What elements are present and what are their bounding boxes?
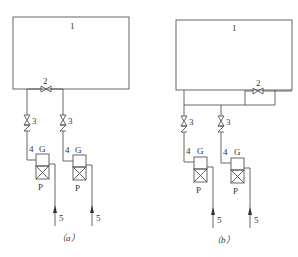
valve-2-icon-b — [253, 88, 263, 94]
valve-3-label: 3 — [189, 117, 194, 127]
gas-label: G — [39, 144, 46, 154]
panel-a: 1 2 3 4 G P 5 3 — [13, 17, 129, 243]
gas-chamber-icon — [194, 157, 207, 169]
inlet-label: 5 — [254, 215, 259, 225]
pipe-4-label: 4 — [186, 146, 191, 156]
pump-unit-b2: 3 4 G P 5 — [218, 105, 259, 228]
pipe-4-label: 4 — [29, 144, 34, 154]
inlet-arrow-icon — [53, 205, 57, 213]
tank-label-a: 1 — [70, 21, 75, 31]
gas-label: G — [75, 145, 82, 155]
caption-a: （a） — [57, 233, 80, 243]
schematic-diagram: 1 2 3 4 G P 5 3 — [0, 0, 298, 257]
inlet-arrow-icon — [211, 207, 215, 215]
caption-b: （b） — [212, 235, 235, 245]
pump-unit-a1: 3 4 G P 5 — [24, 89, 64, 226]
inlet-label: 5 — [96, 213, 101, 223]
pipe-4-label: 4 — [65, 145, 70, 155]
gas-label: G — [234, 147, 241, 157]
pump-unit-b1: 3 4 G P 5 — [181, 105, 222, 228]
valve-2-label-a: 2 — [43, 76, 48, 86]
inlet-label: 5 — [217, 215, 222, 225]
inlet-label: 5 — [59, 213, 64, 223]
check-valve-icon — [60, 125, 66, 131]
valve-3-label: 3 — [32, 116, 37, 126]
valve-2-label-b: 2 — [256, 78, 261, 88]
pump-label: P — [196, 185, 201, 195]
pipe-4-label: 4 — [223, 147, 228, 157]
check-valve-icon — [181, 126, 187, 132]
gas-label: G — [197, 146, 204, 156]
pump-label: P — [233, 186, 238, 196]
panel-b: 1 2 3 4 G P 5 — [176, 20, 292, 245]
pump-unit-a2: 3 4 G P 5 — [60, 89, 101, 226]
valve-3-icon — [24, 115, 30, 125]
pump-label: P — [75, 183, 80, 193]
pump-label: P — [38, 182, 43, 192]
valve-3-icon — [218, 116, 224, 126]
tank-label-b: 1 — [232, 23, 237, 33]
check-valve-icon — [24, 125, 30, 131]
valve-3-icon — [181, 116, 187, 126]
inlet-arrow-icon — [90, 205, 94, 213]
check-valve-icon — [218, 126, 224, 132]
gas-chamber-icon — [73, 155, 86, 167]
inlet-arrow-icon — [248, 207, 252, 215]
valve-3-label: 3 — [226, 117, 231, 127]
gas-chamber-icon — [36, 154, 49, 166]
gas-chamber-icon — [231, 158, 244, 170]
valve-3-label: 3 — [68, 116, 73, 126]
valve-3-icon — [60, 115, 66, 125]
